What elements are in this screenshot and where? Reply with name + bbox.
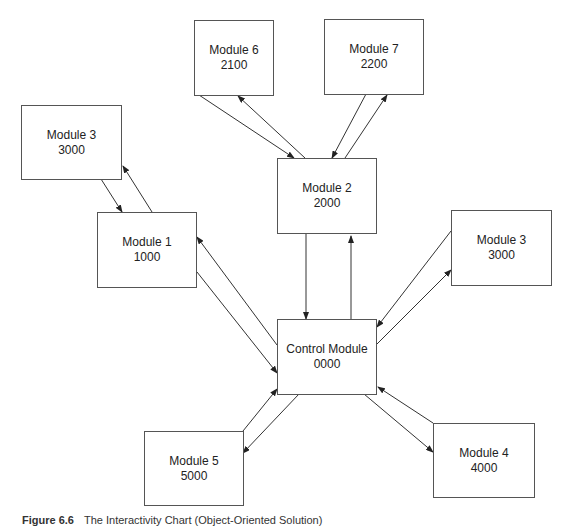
module-6-name: Module 6 [209, 43, 258, 58]
control-module-box: Control Module 0000 [277, 319, 377, 395]
module-2-box: Module 2 2000 [277, 158, 377, 234]
figure-caption: Figure 6.6The Interactivity Chart (Objec… [22, 514, 322, 526]
module-2-code: 2000 [314, 196, 341, 211]
module-7-box: Module 7 2200 [324, 19, 424, 95]
module-7-name: Module 7 [349, 42, 398, 57]
module-6-code: 2100 [221, 58, 248, 73]
module-1-code: 1000 [134, 250, 161, 265]
control-module-name: Control Module [286, 342, 367, 357]
module-4-name: Module 4 [459, 446, 508, 461]
module-1-box: Module 1 1000 [97, 212, 197, 288]
figure-title: The Interactivity Chart (Object-Oriented… [84, 514, 322, 526]
module-4-code: 4000 [471, 461, 498, 476]
module-4-box: Module 4 4000 [433, 423, 535, 498]
module-1-name: Module 1 [122, 235, 171, 250]
module-6-box: Module 6 2100 [194, 20, 274, 96]
module-2-name: Module 2 [302, 181, 351, 196]
module-3-right-code: 3000 [488, 248, 515, 263]
module-3-left-code: 3000 [58, 143, 85, 158]
figure-label: Figure 6.6 [22, 514, 74, 526]
module-3-right-name: Module 3 [477, 233, 526, 248]
module-5-box: Module 5 5000 [144, 431, 244, 506]
module-7-code: 2200 [361, 57, 388, 72]
module-3-left-name: Module 3 [47, 128, 96, 143]
module-5-code: 5000 [181, 469, 208, 484]
control-module-code: 0000 [314, 357, 341, 372]
module-3-right-box: Module 3 3000 [451, 210, 552, 286]
module-5-name: Module 5 [169, 454, 218, 469]
module-3-left-box: Module 3 3000 [21, 105, 122, 180]
